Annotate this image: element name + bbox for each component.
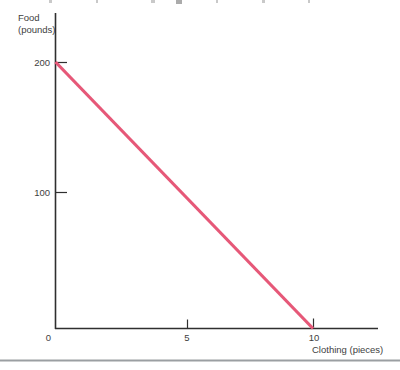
origin-tick-label: 0 <box>46 332 51 343</box>
y-tick-label-200: 200 <box>34 57 50 68</box>
y-axis-title-line1: Food <box>18 12 40 23</box>
y-tick-label-100: 100 <box>34 187 50 198</box>
x-tick-label-5: 5 <box>184 332 189 343</box>
textbook-figure-page: Food (pounds) 200 100 0 5 10 Clothing (p… <box>0 0 400 370</box>
x-tick-label-10: 10 <box>309 332 320 343</box>
budget-line <box>56 62 314 329</box>
budget-line-chart: Food (pounds) 200 100 0 5 10 Clothing (p… <box>0 0 400 370</box>
x-axis-title: Clothing (pieces) <box>312 344 383 355</box>
cropped-text-fragments <box>49 0 310 4</box>
y-axis-title-line2: (pounds) <box>18 24 56 35</box>
